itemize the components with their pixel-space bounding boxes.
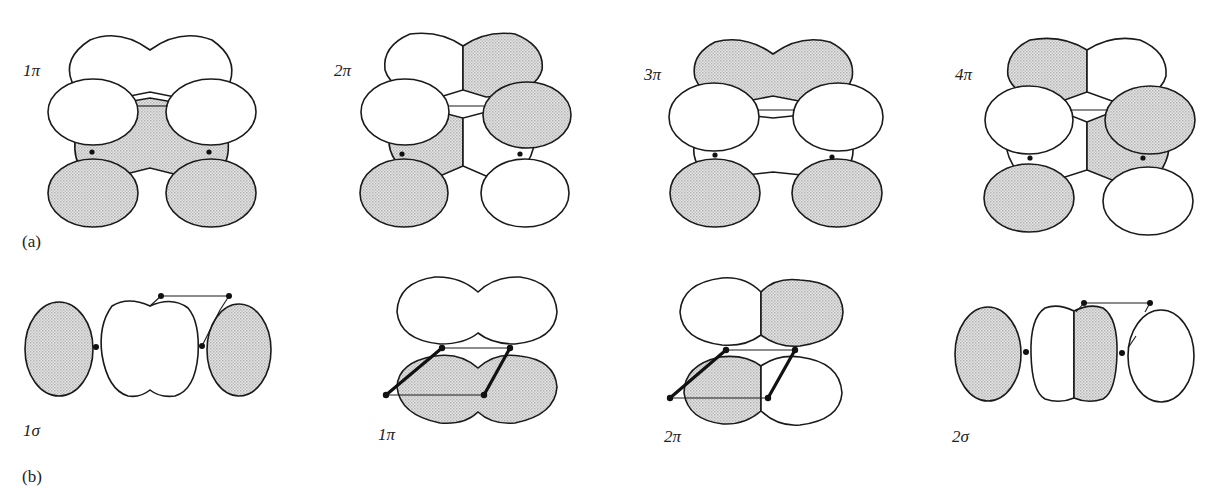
- orbital-label: 1π: [378, 426, 395, 443]
- nucleus-dot: [481, 392, 487, 398]
- nucleus-dot: [507, 345, 513, 351]
- nucleus-dot: [517, 151, 522, 156]
- nucleus-dot: [1147, 300, 1153, 306]
- left-lobe: [25, 302, 93, 396]
- nucleus-dot: [723, 347, 729, 353]
- nucleus-dot: [439, 345, 445, 351]
- upper-left-lobe: [361, 79, 449, 145]
- molecular-orbital-figure: [0, 0, 1223, 498]
- upper-left-lobe: [48, 79, 138, 145]
- orbital-label: 2π: [664, 428, 681, 445]
- upper-left-lobe: [985, 86, 1073, 154]
- lower-left-lobe: [984, 164, 1074, 232]
- upper-left-lobe: [669, 83, 759, 151]
- lower-left-lobe: [670, 159, 760, 227]
- nucleus-dot: [1027, 155, 1032, 160]
- bottom-left-lobe: [684, 356, 761, 424]
- top-left-lobe: [680, 278, 761, 346]
- orbital-a-2pi: [360, 33, 571, 227]
- upper-right-lobe: [1105, 86, 1195, 154]
- nucleus-dot: [1140, 155, 1145, 160]
- orbital-a-1pi: [48, 36, 256, 227]
- upper-right-lobe: [483, 82, 571, 148]
- nucleus-dot: [792, 347, 798, 353]
- nucleus-dot: [712, 152, 717, 157]
- top-lobe: [397, 277, 557, 344]
- orbital-a-3pi: [669, 40, 883, 227]
- lower-left-lobe: [360, 159, 448, 227]
- nucleus-dot: [829, 154, 834, 159]
- orbital-label: 2σ: [952, 428, 969, 445]
- nucleus-dot: [383, 392, 389, 398]
- nucleus-dot: [226, 293, 232, 299]
- orbital-b-2pi: [667, 278, 843, 425]
- center-right-lobe: [1074, 306, 1117, 401]
- nucleus-dot: [667, 395, 673, 401]
- lower-left-lobe: [48, 159, 138, 227]
- orbital-a-4pi: [984, 38, 1195, 235]
- nucleus-dot: [765, 395, 771, 401]
- panel-label-b: (b): [22, 468, 42, 485]
- orbital-b-1pi: [383, 277, 557, 423]
- lower-right-lobe: [166, 159, 256, 227]
- orbital-b-2sigma: [955, 300, 1194, 402]
- top-right-lobe: [761, 280, 843, 347]
- upper-right-lobe: [166, 79, 256, 145]
- nucleus-dot: [399, 151, 404, 156]
- nucleus-dot: [1119, 350, 1125, 356]
- orbital-label: 1π: [23, 62, 40, 79]
- nucleus-dot: [158, 293, 164, 299]
- center-left-lobe: [1031, 306, 1074, 401]
- upper-right-lobe: [793, 83, 883, 151]
- orbital-b-1sigma: [25, 293, 271, 396]
- nucleus-dot: [206, 149, 211, 154]
- nucleus-dot: [1023, 349, 1029, 355]
- center-lobe: [101, 301, 198, 396]
- panel-label-a: (a): [22, 233, 41, 250]
- right-lobe: [1128, 310, 1194, 402]
- nucleus-dot: [93, 344, 99, 350]
- orbital-label: 1σ: [23, 422, 40, 439]
- orbital-label: 3π: [644, 66, 661, 83]
- lower-right-lobe: [481, 159, 569, 227]
- nucleus-dot: [199, 343, 205, 349]
- orbital-label: 2π: [334, 62, 351, 79]
- orbital-label: 4π: [955, 66, 972, 83]
- lower-right-lobe: [1103, 167, 1193, 235]
- left-lobe: [955, 307, 1021, 401]
- lower-right-lobe: [792, 159, 882, 227]
- nucleus-dot: [89, 149, 94, 154]
- nucleus-dot: [1081, 300, 1087, 306]
